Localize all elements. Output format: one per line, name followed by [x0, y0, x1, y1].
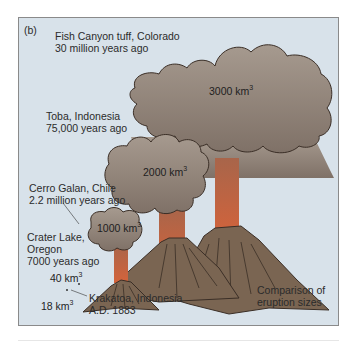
- crater-lake-name: Crater Lake,: [27, 231, 85, 243]
- cerro-galan-volume: 1000 km3: [97, 221, 141, 234]
- caption-line-2: eruption sizes: [257, 296, 322, 308]
- eruption-diagram-frame: (b) Fish Canyon tuff, Colorado 30 millio…: [18, 17, 339, 326]
- toba-volume: 2000 km3: [143, 165, 187, 178]
- fish-canyon-age: 30 million years ago: [55, 42, 148, 54]
- caption-line-1: Comparison of: [257, 284, 325, 296]
- fish-canyon-name: Fish Canyon tuff, Colorado: [55, 30, 180, 42]
- krakatoa-name: Krakatoa, Indonesia: [89, 292, 182, 304]
- toba-name: Toba, Indonesia: [46, 110, 120, 122]
- fish-canyon-volume: 3000 km3: [209, 84, 253, 97]
- toba-age: 75,000 years ago: [46, 122, 127, 134]
- divider: [18, 340, 339, 341]
- crater-lake-location: Oregon: [27, 243, 62, 255]
- panel-label: (b): [24, 24, 37, 36]
- krakatoa-volume: 18 km3: [41, 299, 74, 312]
- crater-lake-volume: 40 km3: [50, 271, 83, 284]
- krakatoa-marker: [66, 289, 68, 291]
- cerro-galan-name: Cerro Galan, Chile: [29, 182, 116, 194]
- crater-lake-leader-line: [63, 203, 79, 224]
- krakatoa-leader-line: [71, 290, 87, 296]
- crater-lake-age: 7000 years ago: [27, 255, 99, 267]
- cerro-galan-age: 2.2 million years ago: [29, 194, 125, 206]
- krakatoa-date: A.D. 1883: [89, 304, 136, 316]
